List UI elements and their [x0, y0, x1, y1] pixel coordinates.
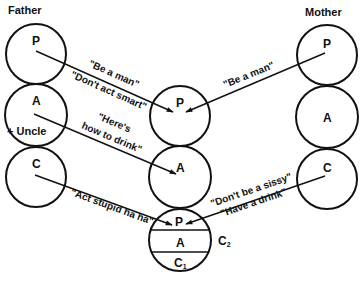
mother-c-label: C [323, 161, 332, 175]
child-ego-states: P A P A C1 C2 [149, 86, 231, 271]
child-parent-circle [150, 86, 210, 146]
child-a-label: A [176, 161, 185, 175]
father-a-label: A [32, 94, 41, 108]
mother-ego-states: P A C [296, 25, 358, 209]
child-adult-circle [149, 146, 211, 208]
mother-child-circle [297, 149, 357, 209]
mother-a-label: A [323, 111, 332, 125]
father-c-label: C [32, 157, 41, 171]
c1-label: C1 [174, 256, 187, 270]
mother-label: Mother [305, 6, 342, 18]
mother-p-label: P [323, 37, 331, 51]
script-diagram: Father Mother P A C + Uncle P A C P A P … [0, 0, 361, 289]
c2-label: C2 [218, 234, 231, 248]
uncle-label: + Uncle [7, 125, 46, 137]
msg-act-stupid: "Act stupid ha ha" [69, 187, 155, 227]
arrow-mother-p-to-child-p [186, 53, 325, 112]
child-p-label: P [176, 96, 184, 110]
child-inner-p-label: P [175, 215, 183, 229]
mother-parent-circle [297, 25, 357, 85]
father-label: Father [8, 4, 42, 16]
father-p-label: P [32, 34, 40, 48]
father-child-circle [6, 147, 66, 207]
child-inner-a-label: A [176, 236, 185, 250]
father-parent-circle [6, 24, 66, 84]
